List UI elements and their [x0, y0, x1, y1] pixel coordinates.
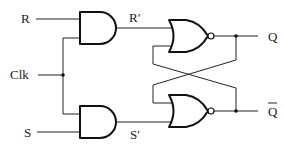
- label-clk: Clk: [10, 67, 29, 82]
- nor-bottom-inversion-bubble: [208, 108, 214, 114]
- qbar-junction-dot: [234, 109, 238, 113]
- nor-gate-top: [169, 20, 208, 52]
- wire-clk-bus: [63, 38, 80, 114]
- label-r-prime: R′: [129, 10, 141, 25]
- label-s: S: [24, 125, 31, 140]
- label-r: R: [21, 11, 30, 26]
- nor-gate-bottom: [169, 95, 208, 127]
- q-junction-dot: [234, 34, 238, 38]
- and-gate-bottom: [80, 106, 116, 138]
- and-gate-top: [80, 12, 116, 44]
- label-qbar: Q: [268, 104, 278, 119]
- clk-junction-dot: [61, 73, 65, 77]
- clocked-sr-latch-diagram: R Clk S R′ S′ Q Q: [0, 0, 284, 154]
- label-s-prime: S′: [130, 127, 140, 142]
- nor-top-inversion-bubble: [208, 33, 214, 39]
- label-q: Q: [268, 29, 278, 44]
